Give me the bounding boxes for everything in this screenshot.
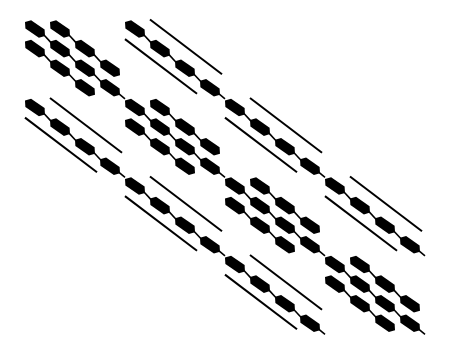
matrix-entry-block — [50, 118, 70, 136]
diagonal-connector — [394, 290, 401, 298]
block-2-1 — [125, 177, 225, 256]
matrix-entry-block — [225, 197, 245, 215]
matrix-entry-block — [150, 138, 170, 156]
diagonal-connector — [69, 133, 76, 141]
matrix-entry-block — [375, 315, 395, 333]
diagonal-connector — [169, 114, 176, 122]
diagonal-connector — [244, 212, 251, 220]
matrix-entry-block — [100, 59, 120, 77]
matrix-entry-block — [250, 275, 270, 293]
matrix-entry-block — [125, 20, 145, 38]
matrix-entry-block — [400, 315, 420, 333]
diagonal-connector — [219, 251, 225, 256]
diagonal-connector — [94, 153, 101, 161]
matrix-entry-block — [225, 177, 245, 195]
diagonal-connector — [144, 192, 151, 200]
matrix-entry-block — [325, 256, 345, 274]
matrix-entry-block — [350, 295, 370, 313]
matrix-entry-block — [200, 236, 220, 254]
diagonal-connector — [44, 114, 51, 122]
matrix-entry-block — [250, 177, 270, 195]
diagonal-connector — [94, 55, 101, 63]
diagonal-connector — [369, 310, 376, 318]
diagonal-connector — [294, 212, 301, 220]
sparsity-pattern-diagram — [0, 0, 451, 352]
matrix-entry-block — [200, 158, 220, 176]
matrix-entry-block — [375, 275, 395, 293]
matrix-entry-block — [275, 236, 295, 254]
diagonal-connector — [344, 290, 351, 298]
matrix-entry-block — [175, 158, 195, 176]
diagonal-connector — [94, 74, 101, 82]
block-0-0 — [25, 20, 125, 99]
matrix-entry-block — [400, 295, 420, 313]
matrix-entry-block — [25, 20, 45, 38]
diagonal-connector — [369, 290, 376, 298]
diagonal-connector — [394, 310, 401, 318]
diagonal-connector — [169, 133, 176, 141]
diagonal-connector — [144, 114, 151, 122]
diagonal-connector — [44, 55, 51, 63]
block-2-2 — [225, 177, 325, 256]
diagonal-connector — [219, 172, 225, 177]
matrix-entry-block — [225, 99, 245, 117]
matrix-entry-block — [50, 20, 70, 38]
matrix-entry-block — [275, 138, 295, 156]
matrix-blocks — [25, 20, 425, 335]
matrix-entry-block — [350, 275, 370, 293]
matrix-entry-block — [75, 138, 95, 156]
diagonal-connector — [169, 212, 176, 220]
matrix-entry-block — [350, 197, 370, 215]
matrix-entry-block — [325, 275, 345, 293]
diagonal-connector — [269, 133, 276, 141]
diagonal-connector — [319, 251, 325, 256]
matrix-entry-block — [75, 79, 95, 97]
block-3-2 — [225, 255, 325, 334]
diagonal-connector — [319, 172, 325, 177]
matrix-entry-block — [300, 158, 320, 176]
matrix-entry-block — [200, 79, 220, 97]
diagonal-connector — [69, 55, 76, 63]
block-2-3 — [325, 177, 425, 256]
matrix-entry-block — [250, 118, 270, 136]
matrix-entry-block — [375, 216, 395, 234]
diagonal-connector — [194, 231, 201, 239]
diagonal-connector — [319, 329, 325, 334]
diagonal-connector — [144, 133, 151, 141]
diagonal-connector — [194, 153, 201, 161]
diagonal-connector — [419, 329, 425, 334]
diagonal-connector — [369, 212, 376, 220]
diagonal-connector — [244, 192, 251, 200]
matrix-entry-block — [25, 99, 45, 117]
matrix-entry-block — [375, 295, 395, 313]
matrix-entry-block — [50, 40, 70, 58]
block-3-3 — [325, 256, 425, 335]
diagonal-connector — [119, 94, 125, 99]
diagonal-connector — [269, 231, 276, 239]
diagonal-connector — [194, 74, 201, 82]
matrix-entry-block — [75, 40, 95, 58]
matrix-entry-block — [175, 118, 195, 136]
matrix-entry-block — [175, 216, 195, 234]
matrix-entry-block — [275, 197, 295, 215]
matrix-entry-block — [75, 59, 95, 77]
diagonal-connector — [194, 133, 201, 141]
matrix-entry-block — [250, 216, 270, 234]
diagonal-connector — [69, 35, 76, 43]
block-1-2 — [225, 98, 325, 177]
diagonal-connector — [269, 290, 276, 298]
diagonal-connector — [169, 153, 176, 161]
block-1-1 — [125, 99, 225, 178]
matrix-entry-block — [175, 59, 195, 77]
matrix-entry-block — [125, 118, 145, 136]
diagonal-connector — [244, 114, 251, 122]
matrix-entry-block — [300, 236, 320, 254]
matrix-entry-block — [400, 236, 420, 254]
diagonal-connector — [144, 35, 151, 43]
matrix-entry-block — [275, 216, 295, 234]
diagonal-connector — [219, 94, 225, 99]
matrix-entry-block — [125, 99, 145, 117]
diagonal-connector — [269, 212, 276, 220]
diagonal-connector — [44, 35, 51, 43]
matrix-entry-block — [100, 158, 120, 176]
